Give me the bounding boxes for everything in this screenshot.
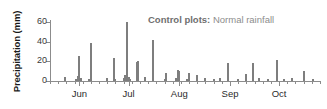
x-tick-minor [66,81,67,84]
bar [126,22,128,81]
x-tick-minor [107,81,108,84]
y-tick-label: 60 [37,16,47,26]
x-tick-minor [156,81,157,84]
x-tick-minor [287,81,288,84]
x-tick-minor [197,81,198,84]
x-tick-minor [58,81,59,84]
annotation-bold-label: Control plots: [148,14,210,25]
bar [114,79,116,81]
x-tick-major [179,81,180,86]
bar [312,79,314,81]
x-tick-minor [99,81,100,84]
annotation-normal-label: Normal rainfall [213,14,274,25]
x-tick-minor [115,81,116,84]
x-tick-minor [83,81,84,84]
bar [152,40,154,81]
bar [188,73,190,81]
x-tick-major [230,81,231,86]
bar [106,78,108,81]
bar [245,74,247,81]
x-tick-minor [271,81,272,84]
x-tick-major [79,81,80,86]
bar [227,63,229,81]
bar [129,79,131,81]
x-tick-minor [304,81,305,84]
bar [219,78,221,81]
x-tick-minor [312,81,313,84]
x-tick-minor [320,81,321,84]
x-tick-major [129,81,130,86]
bar-series [50,20,320,81]
bar [303,71,305,81]
bar [144,77,146,81]
bar [64,77,66,81]
x-tick-minor [263,81,264,84]
x-tick-label: Jul [122,88,134,99]
x-tick-minor [222,81,223,84]
x-tick-minor [91,81,92,84]
x-tick-minor [75,81,76,84]
x-tick-label: Oct [272,88,287,99]
bar [252,63,254,81]
x-tick-minor [124,81,125,84]
bar [80,78,82,81]
x-tick-minor [140,81,141,84]
bar [165,73,167,81]
bar [213,79,215,81]
x-tick-minor [246,81,247,84]
bar [90,43,92,81]
bar [137,61,139,81]
bar [113,58,115,81]
bar [204,78,206,81]
x-tick-minor [165,81,166,84]
y-tick-label: 40 [37,36,47,46]
x-tick-label: Aug [171,88,188,99]
bar [196,75,198,81]
y-axis-title: Precipitation (mm) [11,5,22,99]
bar [283,79,285,81]
x-tick-minor [214,81,215,84]
bar [267,79,269,81]
precipitation-chart: Precipitation (mm) 0204060 JunJulAugSepO… [0,0,327,109]
x-tick-label: Jun [72,88,87,99]
x-tick-minor [255,81,256,84]
x-tick-minor [50,81,51,84]
bar [178,71,180,81]
y-tick-label: 0 [42,75,47,85]
bar [276,60,278,81]
y-tick-label: 20 [37,55,47,65]
x-tick-minor [205,81,206,84]
x-tick-minor [238,81,239,84]
x-tick-minor [132,81,133,84]
plot-area: 0204060 JunJulAugSepOct [50,20,320,81]
bar [237,79,239,81]
x-tick-minor [148,81,149,84]
x-tick-major [279,81,280,86]
bar [291,78,293,81]
x-tick-label: Sep [222,88,239,99]
bar [258,78,260,81]
chart-annotation: Control plots: Normal rainfall [148,14,274,25]
x-tick-minor [181,81,182,84]
x-tick-minor [173,81,174,84]
x-tick-minor [295,81,296,84]
x-tick-minor [189,81,190,84]
